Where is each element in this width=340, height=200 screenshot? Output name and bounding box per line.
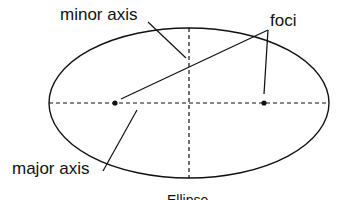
major-axis-label: major axis	[12, 160, 89, 177]
major-axis-leader	[103, 110, 137, 171]
foci-label: foci	[270, 12, 296, 29]
minor-axis-leader	[148, 22, 186, 58]
focus-point-right	[261, 100, 266, 105]
minor-axis-label: minor axis	[60, 6, 137, 23]
diagram-title: Ellipse	[167, 193, 208, 200]
focus-point-left	[112, 100, 117, 105]
foci-leader-left	[121, 30, 268, 99]
